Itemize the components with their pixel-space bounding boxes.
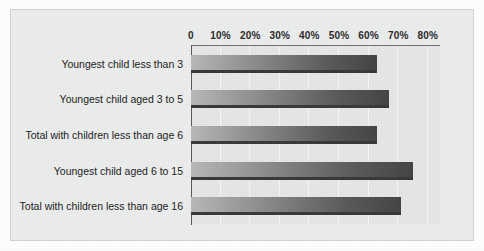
value-axis-tick-20: 20% bbox=[240, 28, 261, 44]
bar-4[interactable] bbox=[191, 162, 413, 180]
bar-5[interactable] bbox=[191, 197, 401, 215]
category-label-2: Youngest child aged 3 to 5 bbox=[60, 93, 183, 105]
value-axis-tick-60: 60% bbox=[358, 28, 379, 44]
value-axis-tick-40: 40% bbox=[299, 28, 320, 44]
bar-3[interactable] bbox=[191, 126, 377, 144]
bar-fill bbox=[191, 90, 389, 105]
category-label-3: Total with children less than age 6 bbox=[25, 129, 183, 141]
category-label-1: Youngest child less than 3 bbox=[61, 58, 183, 70]
value-axis-tick-labels: 010%20%30%40%50%60%70%80% bbox=[11, 28, 475, 44]
value-axis-tick-50: 50% bbox=[329, 28, 350, 44]
bars-layer bbox=[191, 46, 440, 224]
value-axis-tick-70: 70% bbox=[388, 28, 409, 44]
bar-fill bbox=[191, 162, 413, 177]
value-axis-tick-10: 10% bbox=[210, 28, 231, 44]
bar-2[interactable] bbox=[191, 90, 389, 108]
value-axis-tick-30: 30% bbox=[269, 28, 290, 44]
chart-panel: 010%20%30%40%50%60%70%80% Youngest child… bbox=[10, 9, 474, 241]
category-label-5: Total with children less than age 16 bbox=[20, 200, 183, 212]
bar-baseline bbox=[191, 105, 389, 108]
bar-baseline bbox=[191, 177, 413, 180]
bar-baseline bbox=[191, 70, 377, 73]
category-axis-labels: Youngest child less than 3Youngest child… bbox=[11, 46, 187, 224]
value-axis-tick-0: 0 bbox=[188, 28, 194, 44]
bar-chart-figure: 010%20%30%40%50%60%70%80% Youngest child… bbox=[0, 0, 484, 251]
bar-baseline bbox=[191, 212, 401, 215]
bar-1[interactable] bbox=[191, 55, 377, 73]
value-axis-tick-80: 80% bbox=[417, 28, 438, 44]
category-label-4: Youngest child aged 6 to 15 bbox=[54, 165, 183, 177]
bar-fill bbox=[191, 55, 377, 70]
bar-fill bbox=[191, 197, 401, 212]
bar-fill bbox=[191, 126, 377, 141]
bar-baseline bbox=[191, 141, 377, 144]
